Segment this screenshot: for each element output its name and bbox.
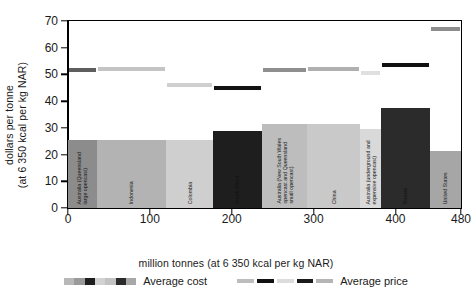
y-tick-mark bbox=[61, 207, 67, 208]
x-tick-mark bbox=[231, 208, 232, 214]
bar-label: Indonesia bbox=[128, 144, 134, 204]
legend-item-average-price: Average price bbox=[237, 275, 408, 287]
x-tick-mark bbox=[67, 208, 68, 214]
bar-label: Australia (New South Wales opencast and … bbox=[275, 128, 294, 204]
x-tick-mark bbox=[395, 208, 396, 214]
y-tick-mark bbox=[61, 154, 67, 155]
y-tick-label: 70 bbox=[0, 14, 58, 28]
y-tick-mark bbox=[61, 127, 67, 128]
legend-swatch-average-price bbox=[237, 279, 333, 283]
y-tick-mark bbox=[61, 100, 67, 101]
y-tick-mark bbox=[61, 74, 67, 75]
coal-cost-price-chart: dollars per tonne (at 6 350 kcal per kg … bbox=[0, 0, 472, 300]
bar-segment: United States bbox=[430, 151, 461, 208]
price-line-segment bbox=[263, 68, 306, 72]
bar-segment: South Africa bbox=[213, 131, 262, 208]
x-tick-label: 400 bbox=[385, 212, 405, 226]
price-line-segment bbox=[382, 63, 429, 67]
price-line-segment bbox=[214, 86, 261, 90]
x-axis-title: million tonnes (at 6 350 kcal per kg NAR… bbox=[0, 257, 472, 269]
x-tick-label: 480 bbox=[451, 212, 471, 226]
bar-label: Australia (underground and expensive ope… bbox=[364, 133, 376, 204]
price-line-segment bbox=[431, 27, 460, 31]
y-tick-label: 50 bbox=[0, 67, 58, 81]
x-tick-label: 300 bbox=[304, 212, 324, 226]
y-tick-label: 60 bbox=[0, 41, 58, 55]
legend-label-average-cost: Average cost bbox=[143, 275, 207, 287]
x-tick-label: 200 bbox=[222, 212, 242, 226]
y-tick-label: 40 bbox=[0, 94, 58, 108]
bar-label: Russia bbox=[402, 112, 408, 204]
price-line-segment bbox=[308, 67, 359, 71]
bar-segment: Australia (New South Wales opencast and … bbox=[262, 124, 307, 208]
x-tick-mark bbox=[149, 208, 150, 214]
bar-segment: Indonesia bbox=[97, 140, 167, 208]
price-line-segment bbox=[167, 83, 212, 87]
y-tick-mark bbox=[61, 181, 67, 182]
bar-label: South Africa bbox=[234, 135, 240, 204]
x-tick-label: 100 bbox=[140, 212, 160, 226]
price-line-segment bbox=[69, 68, 96, 72]
x-tick-mark bbox=[313, 208, 314, 214]
legend-swatch-average-cost bbox=[64, 278, 136, 285]
y-tick-label: 20 bbox=[0, 148, 58, 162]
plot-area: Australia (Queensland large opencast)Ind… bbox=[68, 21, 461, 208]
y-tick-mark bbox=[61, 47, 67, 48]
y-tick-mark bbox=[61, 20, 67, 21]
bar-segment: Australia (Queensland large opencast) bbox=[68, 140, 97, 208]
y-tick-label: 10 bbox=[0, 174, 58, 188]
bar-segment: China bbox=[307, 124, 360, 208]
bar-label: China bbox=[331, 128, 337, 204]
price-line-segment bbox=[361, 71, 379, 75]
x-tick-label: 0 bbox=[65, 212, 72, 226]
bar-label: Colombia bbox=[186, 144, 192, 204]
bar-label: United States bbox=[442, 155, 448, 204]
bar-segment: Russia bbox=[381, 108, 430, 208]
legend-label-average-price: Average price bbox=[340, 275, 408, 287]
bar-segment: Australia (underground and expensive ope… bbox=[360, 129, 380, 208]
chart-legend: Average cost Average price bbox=[0, 275, 472, 287]
y-tick-label: 0 bbox=[0, 201, 58, 215]
y-tick-label: 30 bbox=[0, 121, 58, 135]
x-tick-mark bbox=[460, 208, 461, 214]
price-line-segment bbox=[98, 67, 166, 71]
legend-item-average-cost: Average cost bbox=[64, 275, 207, 287]
bar-segment: Colombia bbox=[166, 140, 213, 208]
bar-label: Australia (Queensland large opencast) bbox=[76, 144, 88, 204]
